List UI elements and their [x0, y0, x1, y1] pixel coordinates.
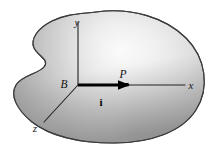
point-label-b: B	[60, 78, 67, 90]
axis-label-y: y	[74, 16, 80, 28]
axis-label-z: z	[32, 122, 38, 134]
point-label-p: P	[118, 68, 126, 80]
rigid-body-diagram: y x z B P i	[0, 0, 220, 148]
vector-label-i: i	[99, 96, 102, 108]
figure-container: y x z B P i	[0, 0, 220, 148]
point-p-marker	[125, 83, 128, 86]
axis-label-x: x	[188, 79, 194, 91]
